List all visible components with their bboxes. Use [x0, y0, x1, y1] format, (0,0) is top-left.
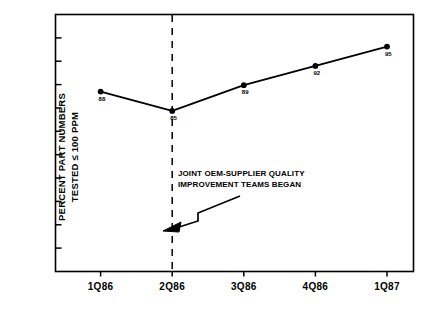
- x-axis-tick-label: 1Q86: [88, 281, 114, 292]
- y-axis-title: PERCENT PART NUMBERS TESTED ≤ 100 PPM: [55, 93, 81, 221]
- data-series-line: [101, 47, 387, 111]
- chart-figure: PERCENT PART NUMBERS TESTED ≤ 100 PPM JO…: [0, 0, 424, 313]
- annotation-arrow: [163, 196, 240, 232]
- x-axis-tick-label: 4Q86: [303, 281, 329, 292]
- annotation-arrow-shaft: [176, 196, 240, 228]
- annotation-text-line1: JOINT OEM-SUPPLIER QUALITY: [178, 168, 305, 179]
- data-point-marker: [384, 44, 390, 50]
- x-axis-tick-label: 2Q86: [159, 281, 185, 292]
- x-axis-tick-label: 3Q86: [231, 281, 257, 292]
- data-point-label: 85: [170, 115, 177, 121]
- data-point-label: 88: [99, 96, 106, 102]
- data-point-label: 89: [242, 89, 249, 95]
- annotation-text: JOINT OEM-SUPPLIER QUALITY IMPROVEMENT T…: [178, 168, 305, 190]
- data-point-label: 92: [313, 70, 320, 76]
- y-axis-title-line2: TESTED ≤ 100 PPM: [68, 93, 81, 221]
- data-point-marker: [313, 63, 319, 69]
- data-point-marker: [98, 89, 104, 95]
- annotation-text-line2: IMPROVEMENT TEAMS BEGAN: [178, 179, 305, 190]
- data-point-marker: [241, 82, 247, 88]
- x-axis-tick-label: 1Q87: [374, 281, 400, 292]
- y-axis-title-line1: PERCENT PART NUMBERS: [55, 93, 68, 221]
- data-point-marker: [169, 108, 175, 114]
- data-point-label: 95: [385, 51, 392, 57]
